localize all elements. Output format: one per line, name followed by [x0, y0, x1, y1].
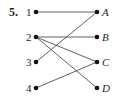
node-dot-C	[95, 60, 100, 65]
node-dot-2	[34, 35, 39, 40]
problem-number: 5.	[9, 5, 18, 19]
bipartite-mapping-diagram: 5. 1234 ABCD	[0, 0, 115, 98]
left-node-group: 1234	[26, 6, 38, 94]
node-label-2: 2	[26, 31, 32, 43]
right-node-group: ABCD	[95, 6, 110, 94]
edge-4-C	[36, 62, 97, 88]
node-label-C: C	[102, 56, 110, 68]
node-dot-3	[34, 60, 39, 65]
node-dot-1	[34, 10, 39, 15]
node-label-4: 4	[26, 82, 32, 94]
node-dot-D	[95, 86, 100, 91]
node-label-D: D	[101, 82, 110, 94]
node-label-B: B	[102, 31, 109, 43]
node-label-3: 3	[26, 56, 32, 68]
node-label-A: A	[101, 6, 109, 18]
node-dot-A	[95, 10, 100, 15]
node-dot-B	[95, 35, 100, 40]
edge-2-C	[36, 37, 97, 62]
edge-group	[36, 12, 97, 88]
node-label-1: 1	[26, 6, 32, 18]
node-dot-4	[34, 86, 39, 91]
edge-2-D	[36, 37, 97, 88]
